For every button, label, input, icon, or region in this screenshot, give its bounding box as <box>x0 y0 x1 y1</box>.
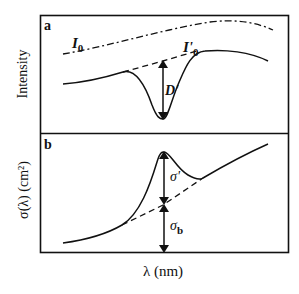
total-cross-section-curve <box>63 144 268 243</box>
d-prime-label: D' <box>164 83 179 98</box>
incident-intensity-curve <box>63 21 273 54</box>
sigma-b-label: σb <box>170 218 183 236</box>
panel-b: b σ(λ) (cm²) σ' σb <box>16 137 268 249</box>
sigma-prime-label: σ' <box>170 169 181 184</box>
panel-a-label: a <box>44 18 51 33</box>
i0-label: I0 <box>71 35 84 54</box>
panel-a-ylabel: Intensity <box>15 50 30 99</box>
x-axis-label: λ (nm) <box>143 263 183 280</box>
diagram-figure: a Intensity I0 I'0 D' b σ(λ) (cm²) σ' σb… <box>0 0 299 294</box>
panel-b-label: b <box>44 137 52 152</box>
panel-a: a Intensity I0 I'0 D' <box>15 18 273 119</box>
background-cross-section-curve <box>122 178 203 225</box>
panel-b-ylabel: σ(λ) (cm²) <box>16 161 32 219</box>
